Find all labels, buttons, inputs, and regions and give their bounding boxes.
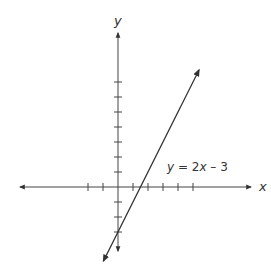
equation-mid: = 2: [174, 160, 199, 174]
equation-label: y = 2x – 3: [166, 160, 228, 174]
x-axis-label: x: [258, 179, 267, 194]
equation-end: – 3: [207, 160, 228, 174]
coordinate-plane: x y y = 2x – 3: [0, 0, 271, 273]
y-axis-label: y: [113, 13, 122, 28]
